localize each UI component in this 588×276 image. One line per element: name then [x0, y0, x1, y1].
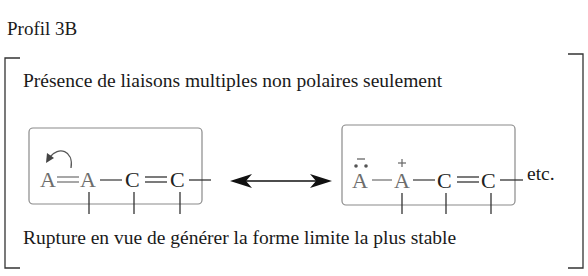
plus-charge-icon	[398, 159, 406, 167]
curved-arrow-icon	[50, 151, 71, 168]
atom-a1: A	[40, 167, 56, 192]
right-structure-box: A A C C	[342, 125, 523, 214]
atom-a1-anion: A	[352, 168, 368, 193]
atom-a2-cation: A	[394, 168, 410, 193]
atom-c1: C	[125, 167, 140, 192]
atom-c2: C	[170, 167, 185, 192]
right-bracket	[568, 54, 583, 268]
left-structure-box: A A C C	[29, 128, 211, 214]
atom-a2: A	[80, 167, 96, 192]
atom-c2-right: C	[481, 168, 496, 193]
resonance-diagram: A A C C A A	[0, 0, 588, 276]
left-bracket	[5, 58, 20, 268]
atom-c1-right: C	[437, 168, 452, 193]
resonance-arrow-icon	[230, 174, 332, 188]
